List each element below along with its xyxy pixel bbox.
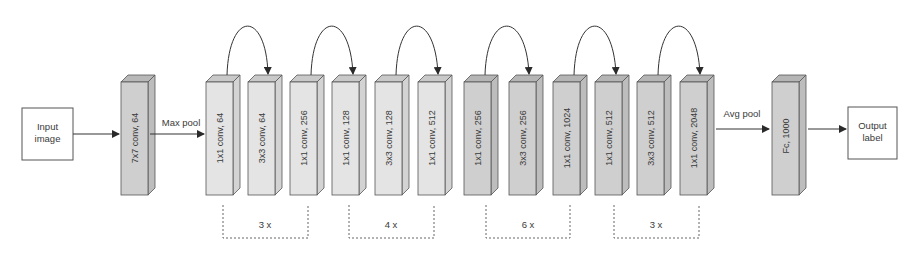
output-label-line1: Output <box>858 120 887 131</box>
block-8: 3x3 conv, 256 <box>509 75 543 195</box>
block-1: 1x1 conv, 64 <box>206 75 240 195</box>
block-10: 1x1 conv, 512 <box>595 75 629 195</box>
block-11: 3x3 conv, 512 <box>637 75 671 195</box>
skip-arrow <box>658 26 700 75</box>
max-pool-label: Max pool <box>162 117 201 128</box>
repeat-label-stage4: 3 x <box>650 219 663 230</box>
stem-conv-block: 7x7 conv, 64 <box>121 75 155 195</box>
fc-block: Fc, 1000 <box>772 75 806 195</box>
block-label: 1x1 conv, 1024 <box>562 108 572 168</box>
skip-arrow <box>311 26 353 75</box>
block-5: 3x3 conv, 128 <box>375 75 409 195</box>
block-label: 1x1 conv, 512 <box>604 110 614 165</box>
block-label: 1x1 conv, 64 <box>215 113 225 163</box>
output-label-line2: label <box>862 132 882 143</box>
block-label: 1x1 conv, 256 <box>299 110 309 165</box>
block-label: 1x1 conv, 256 <box>473 110 483 165</box>
fc-label: Fc, 1000 <box>781 118 791 153</box>
stem-label: 7x7 conv, 64 <box>130 113 140 163</box>
input-label-line1: Input <box>37 121 58 132</box>
block-label: 1x1 conv, 512 <box>427 110 437 165</box>
skip-arrow <box>396 26 438 75</box>
block-label: 1x1 conv, 128 <box>341 110 351 165</box>
input-image-box: Input image <box>22 108 73 160</box>
block-7: 1x1 conv, 256 <box>464 75 498 195</box>
block-label: 3x3 conv, 128 <box>384 110 394 165</box>
block-3: 1x1 conv, 256 <box>290 75 324 195</box>
output-label-box: Output label <box>848 107 897 159</box>
block-label: 3x3 conv, 64 <box>257 113 267 163</box>
resnet-diagram: Input image 7x7 conv, 64 Max pool 1x1 co… <box>0 0 919 259</box>
repeat-label-stage1: 3 x <box>259 219 272 230</box>
block-6: 1x1 conv, 512 <box>418 75 452 195</box>
skip-arrow <box>574 26 616 75</box>
block-label: 3x3 conv, 256 <box>518 110 528 165</box>
repeat-brackets <box>223 205 699 238</box>
avg-pool-label: Avg pool <box>724 108 761 119</box>
block-9: 1x1 conv, 1024 <box>553 75 587 195</box>
repeat-label-stage3: 6 x <box>522 219 535 230</box>
block-2: 3x3 conv, 64 <box>248 75 282 195</box>
skip-arrow <box>227 26 268 75</box>
skip-arrow <box>485 26 529 75</box>
block-12: 1x1 conv, 2048 <box>680 75 714 195</box>
repeat-label-stage2: 4 x <box>385 219 398 230</box>
skip-connections <box>227 26 700 75</box>
block-label: 1x1 conv, 2048 <box>689 108 699 168</box>
input-label-line2: image <box>35 133 61 144</box>
block-label: 3x3 conv, 512 <box>646 110 656 165</box>
block-4: 1x1 conv, 128 <box>332 75 366 195</box>
